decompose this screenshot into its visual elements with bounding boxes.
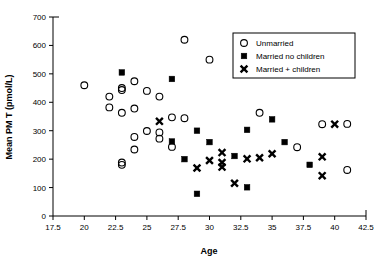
data-point (106, 93, 113, 100)
data-point (118, 109, 125, 116)
data-point (156, 118, 163, 125)
data-point (194, 128, 200, 134)
data-point (144, 88, 151, 95)
data-point (131, 105, 138, 112)
x-tick-label: 37.5 (296, 223, 312, 232)
data-point (131, 146, 138, 153)
data-point (244, 184, 250, 190)
data-point (232, 153, 238, 159)
y-tick-label: 500 (33, 70, 47, 79)
data-point (194, 165, 201, 172)
data-point (319, 153, 326, 160)
data-point (294, 144, 301, 151)
data-point (169, 76, 175, 82)
y-axis-title: Mean PM T (pmol/L) (4, 75, 14, 160)
data-point (331, 121, 338, 128)
legend-marker-filled-square (241, 53, 247, 59)
data-point (307, 162, 313, 168)
data-point (169, 139, 175, 145)
data-point (256, 109, 263, 116)
y-tick-label: 0 (42, 212, 47, 221)
data-point (244, 155, 251, 162)
data-point (144, 128, 151, 135)
x-tick-label: 35 (268, 223, 277, 232)
data-point (131, 134, 138, 141)
data-point (344, 120, 351, 127)
data-point (319, 121, 326, 128)
x-axis-title: Age (200, 246, 217, 256)
data-point (269, 117, 275, 123)
data-point (206, 157, 213, 164)
data-point (156, 93, 163, 100)
data-point (81, 82, 88, 89)
legend-label: Married + children (256, 65, 320, 74)
chart-legend: UnmarriedMarried no childrenMarried + ch… (233, 33, 355, 78)
x-tick-label: 30 (205, 223, 214, 232)
y-tick-label: 300 (33, 127, 47, 136)
data-point (206, 56, 213, 63)
legend-label: Unmarried (256, 39, 293, 48)
data-point (219, 164, 226, 171)
y-tick-label: 200 (33, 155, 47, 164)
data-point (106, 104, 113, 111)
y-tick-label: 400 (33, 98, 47, 107)
data-point (131, 78, 138, 85)
y-tick-label: 700 (33, 13, 47, 22)
x-tick-label: 40 (330, 223, 339, 232)
x-tick-label: 17.5 (45, 223, 61, 232)
data-point (319, 172, 326, 179)
legend-label: Married no children (256, 52, 324, 61)
data-point (219, 149, 226, 156)
data-point (169, 114, 176, 121)
data-point (256, 154, 263, 161)
plot-svg: 010020030040050060070017.52022.52527.530… (0, 0, 391, 261)
data-point (344, 167, 351, 174)
data-point (282, 139, 288, 145)
x-tick-label: 25 (142, 223, 151, 232)
data-point (269, 150, 276, 157)
scatter-chart: 010020030040050060070017.52022.52527.530… (0, 0, 391, 261)
data-point (244, 127, 250, 133)
data-point (181, 36, 188, 43)
x-tick-label: 32.5 (233, 223, 249, 232)
x-tick-label: 22.5 (108, 223, 124, 232)
x-tick-label: 20 (80, 223, 89, 232)
data-point (119, 70, 125, 76)
x-tick-label: 42.5 (358, 223, 374, 232)
data-point (231, 180, 238, 187)
series-married-no-children (119, 70, 312, 197)
y-tick-label: 600 (33, 41, 47, 50)
x-tick-label: 27.5 (170, 223, 186, 232)
data-point (194, 191, 200, 197)
data-point (207, 139, 213, 145)
data-point (181, 115, 188, 122)
y-tick-label: 100 (33, 184, 47, 193)
data-point (182, 156, 188, 162)
